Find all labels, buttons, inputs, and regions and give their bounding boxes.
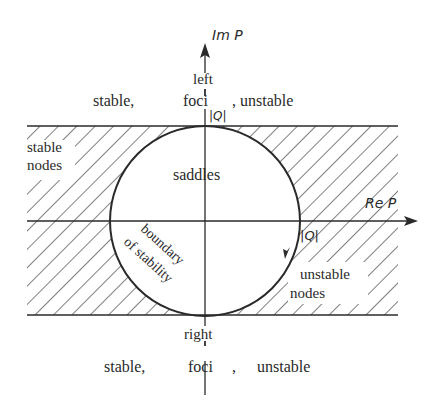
label-bottom-foci: foci <box>188 358 213 375</box>
label-top-foci: foci <box>183 92 208 109</box>
re-axis-label: Re P <box>365 195 397 211</box>
label-unstable-nodes-1: unstable <box>300 266 350 282</box>
label-bottom-comma: , <box>232 358 236 375</box>
label-bottom-stable: stable, <box>104 358 145 375</box>
diagram-canvas: Im P Re P |Q| |Q| left stable, foci , un… <box>0 0 440 407</box>
label-right: right <box>184 326 213 342</box>
label-top-stable: stable, <box>93 92 134 109</box>
label-left: left <box>193 71 214 87</box>
label-unstable-nodes-2: nodes <box>290 285 325 301</box>
label-bottom-unstable: unstable <box>257 358 310 375</box>
label-stable-nodes-2: nodes <box>27 157 62 173</box>
radius-label-top: |Q| <box>209 109 227 123</box>
radius-label-right: |Q| <box>300 228 319 243</box>
label-saddles: saddles <box>173 166 220 183</box>
im-axis-label: Im P <box>212 27 243 43</box>
stability-diagram: Im P Re P |Q| |Q| left stable, foci , un… <box>0 0 440 407</box>
label-top-unstable: , unstable <box>232 92 293 109</box>
label-stable-nodes-1: stable <box>27 139 62 155</box>
